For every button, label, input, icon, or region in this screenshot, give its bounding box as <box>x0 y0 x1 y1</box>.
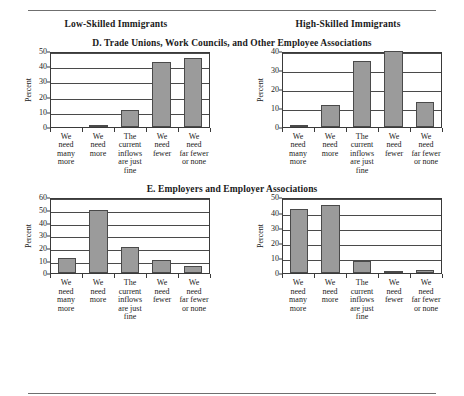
figure-panels-d-e: Low-Skilled Immigrants High-Skilled Immi… <box>0 10 464 396</box>
x-tick-label: Weneedfewer <box>146 279 178 321</box>
y-tick-label: 60 <box>39 194 47 202</box>
bar-slot <box>83 125 115 127</box>
plot-column: WeneedmanymoreWeneedmoreThecurrentinflow… <box>282 198 442 321</box>
bar-slot <box>177 266 209 273</box>
x-tick-label: Weneedmanymore <box>50 133 82 175</box>
x-tick-label: Thecurrentinflowsare justfine <box>346 133 378 175</box>
panel-row-d: Percent01020304050WeneedmanymoreWeneedmo… <box>0 52 464 175</box>
x-tick-mark <box>50 274 51 278</box>
bar <box>184 58 202 127</box>
panel-cell-d-low: Percent01020304050WeneedmanymoreWeneedmo… <box>0 52 232 175</box>
y-tick-label: 10 <box>271 255 279 263</box>
panel-row-e: Percent0102030405060WeneedmanymoreWeneed… <box>0 198 464 321</box>
bar-slot <box>346 261 378 273</box>
x-tick-mark <box>210 128 211 132</box>
y-axis-ticks: 0102030405060 <box>34 198 50 274</box>
y-tick-label: 20 <box>39 245 47 253</box>
bar-slot <box>283 209 315 274</box>
bar <box>152 260 170 273</box>
bar-series <box>51 53 209 127</box>
y-tick-label: 50 <box>39 207 47 215</box>
column-header-high-skilled: High-Skilled Immigrants <box>232 19 464 29</box>
plot-area <box>50 198 210 274</box>
panel-title-e: E. Employers and Employer Associations <box>0 184 464 194</box>
bar-chart: Percent01020304050WeneedmanymoreWeneedmo… <box>254 198 442 321</box>
panel-cell-e-high: Percent01020304050WeneedmanymoreWeneedmo… <box>232 198 464 321</box>
bar <box>121 247 139 274</box>
y-tick-label: 40 <box>271 210 279 218</box>
plot-column: WeneedmanymoreWeneedmoreThecurrentinflow… <box>282 52 442 175</box>
plot-column: WeneedmanymoreWeneedmoreThecurrentinflow… <box>50 198 210 321</box>
x-tick-label: Weneedfar feweror none <box>178 279 210 321</box>
bar <box>89 125 107 127</box>
bar <box>121 110 139 127</box>
y-tick-label: 50 <box>39 48 47 56</box>
x-axis-ticks <box>282 128 442 132</box>
x-tick-mark <box>410 274 411 278</box>
y-tick-label: 10 <box>271 105 279 113</box>
chart-body: Percent0102030405060WeneedmanymoreWeneed… <box>22 198 210 321</box>
bar-series <box>283 53 441 127</box>
y-tick-label: 50 <box>271 194 279 202</box>
bar <box>353 261 371 273</box>
x-tick-mark <box>178 128 179 132</box>
bar-chart: Percent010203040WeneedmanymoreWeneedmore… <box>254 52 442 175</box>
column-header-low-skilled: Low-Skilled Immigrants <box>0 19 232 29</box>
y-axis-title: Percent <box>22 198 34 274</box>
bar <box>290 125 308 127</box>
bar <box>416 270 434 274</box>
x-tick-label: Weneedmore <box>314 133 346 175</box>
x-axis-labels: WeneedmanymoreWeneedmoreThecurrentinflow… <box>282 279 442 321</box>
y-tick-label: 20 <box>39 94 47 102</box>
y-axis-title: Percent <box>254 198 266 274</box>
x-tick-label: Thecurrentinflowsare justfine <box>346 279 378 321</box>
bar <box>321 205 339 273</box>
x-tick-mark <box>442 274 443 278</box>
x-tick-mark <box>146 274 147 278</box>
bar-slot <box>51 258 83 274</box>
panel-cell-e-low: Percent0102030405060WeneedmanymoreWeneed… <box>0 198 232 321</box>
y-tick-label: 40 <box>39 63 47 71</box>
bar-slot <box>409 270 441 274</box>
y-axis-ticks: 01020304050 <box>266 198 282 274</box>
bar-series <box>51 199 209 273</box>
bar-slot <box>409 102 441 127</box>
y-axis-title: Percent <box>254 52 266 128</box>
x-tick-label: Weneedfewer <box>378 279 410 321</box>
panel-cell-d-high: Percent010203040WeneedmanymoreWeneedmore… <box>232 52 464 175</box>
bar-slot <box>177 58 209 127</box>
y-tick-label: 40 <box>39 220 47 228</box>
x-axis-labels: WeneedmanymoreWeneedmoreThecurrentinflow… <box>50 279 210 321</box>
x-tick-mark <box>442 128 443 132</box>
y-axis-title: Percent <box>22 52 34 128</box>
x-tick-label: Thecurrentinflowsare justfine <box>114 133 146 175</box>
x-tick-mark <box>114 128 115 132</box>
y-tick-label: 20 <box>271 240 279 248</box>
plot-area <box>282 52 442 128</box>
x-axis-ticks <box>282 274 442 278</box>
plot-area <box>282 198 442 274</box>
x-tick-label: Weneedmanymore <box>50 279 82 321</box>
chart-body: Percent01020304050WeneedmanymoreWeneedmo… <box>254 198 442 321</box>
x-tick-mark <box>282 128 283 132</box>
x-tick-mark <box>314 128 315 132</box>
bar-slot <box>346 61 378 128</box>
bar <box>384 51 402 127</box>
y-tick-label: 10 <box>39 109 47 117</box>
y-axis-ticks: 01020304050 <box>34 52 50 128</box>
x-tick-mark <box>50 128 51 132</box>
bar-slot <box>114 110 146 127</box>
x-tick-mark <box>82 274 83 278</box>
x-axis-ticks <box>50 274 210 278</box>
x-tick-mark <box>410 128 411 132</box>
x-tick-label: Weneedfar feweror none <box>410 133 442 175</box>
y-tick-label: 10 <box>39 258 47 266</box>
chart-body: Percent010203040WeneedmanymoreWeneedmore… <box>254 52 442 175</box>
x-tick-mark <box>378 274 379 278</box>
bar <box>321 105 339 127</box>
bar <box>290 209 308 274</box>
y-tick-label: 20 <box>271 86 279 94</box>
bar-slot <box>283 125 315 127</box>
bar <box>416 102 434 127</box>
x-axis-labels: WeneedmanymoreWeneedmoreThecurrentinflow… <box>50 133 210 175</box>
